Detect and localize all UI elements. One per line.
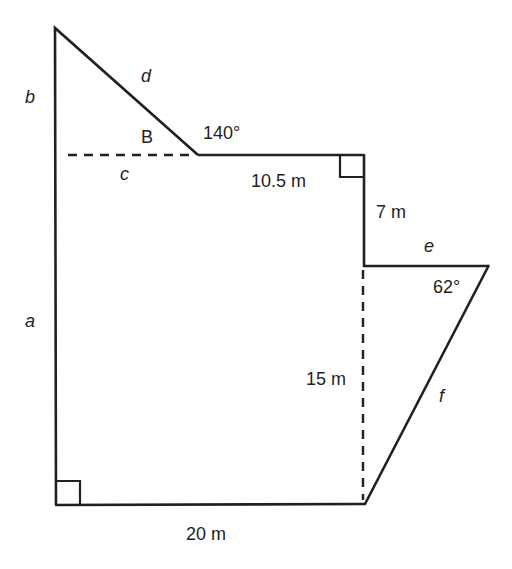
right-angle-marker-bottom xyxy=(56,481,80,505)
left-side-line xyxy=(55,28,198,505)
label-15m: 15 m xyxy=(306,369,346,389)
bottom-edge-20m xyxy=(55,504,366,505)
label-f: f xyxy=(439,386,446,406)
label-10-5m: 10.5 m xyxy=(251,171,306,191)
label-angle-B: B xyxy=(141,127,153,147)
geometry-diagram: b d B 140° c 10.5 m 7 m e 62° a 15 m f 2… xyxy=(0,0,512,569)
edge-f xyxy=(365,265,489,504)
label-angle-140: 140° xyxy=(203,123,240,143)
label-a: a xyxy=(25,311,35,331)
label-7m: 7 m xyxy=(376,202,406,222)
right-angle-marker-top xyxy=(340,155,364,177)
label-20m: 20 m xyxy=(186,524,226,544)
label-angle-62: 62° xyxy=(433,277,460,297)
label-c: c xyxy=(120,164,129,184)
label-e: e xyxy=(424,236,434,256)
label-b: b xyxy=(25,87,35,107)
label-d: d xyxy=(141,66,152,86)
